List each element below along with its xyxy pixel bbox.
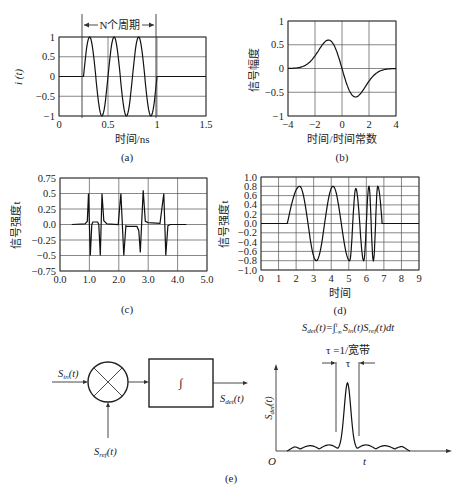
panel-d-xlabel: 时间 <box>329 287 351 299</box>
x-tick-label: 2.0 <box>112 274 125 285</box>
reference-signal-label: Sref(t) <box>94 446 117 459</box>
y-tick-label: −0.5 <box>37 250 56 261</box>
panel-a-ticks: 00.511.510.50−0.5−1 <box>36 32 213 131</box>
x-tick-label: 5 <box>346 273 351 284</box>
arrow-up-icon <box>106 402 110 407</box>
x-tick-label: 3 <box>311 273 316 284</box>
panel-e-xlabel: t <box>363 455 367 467</box>
x-tick-label: 2 <box>293 273 298 284</box>
y-tick-label: −1.0 <box>238 265 257 276</box>
x-tick-label: 4.0 <box>171 274 184 285</box>
y-tick-label: 0.0 <box>43 219 56 230</box>
x-tick-label: 4 <box>329 273 335 284</box>
x-tick-label: 5.0 <box>200 274 213 285</box>
arrow-up-icon <box>274 364 278 370</box>
x-tick-label: −4 <box>282 119 294 130</box>
x-tick-label: 1.0 <box>83 274 96 285</box>
y-tick-label: 1 <box>50 32 55 43</box>
svg-text:Sdet(t)=∫t−∞Sin(t)Sref(t)dt: Sdet(t)=∫t−∞Sin(t)Sref(t)dt <box>302 322 395 335</box>
y-tick-label: 0 <box>279 63 284 74</box>
panel-e-ylabel: Sdet(t) <box>263 396 276 420</box>
arrow-right-icon <box>331 361 336 365</box>
arrow-right-icon <box>144 380 149 384</box>
y-tick-label: 0.5 <box>42 51 55 62</box>
panel-b-ylabel: 信号幅度 <box>247 48 260 92</box>
x-tick-label: 1 <box>154 119 159 130</box>
panel-c-pulse-train-plot: 0.01.02.03.04.05.00.750.50.250.0−0.25−0.… <box>9 173 214 317</box>
panel-b-monocycle-plot: −4−202410.50−0.5−1 信号幅度 时间/时间常数 (b) <box>247 16 399 165</box>
panel-a-caption: (a) <box>121 151 134 164</box>
x-tick-label: 2 <box>366 119 371 130</box>
y-tick-label: 0.75 <box>38 173 56 184</box>
y-tick-label: −0.25 <box>32 235 56 246</box>
panel-b-caption: (b) <box>336 151 349 164</box>
x-tick-label: −2 <box>309 119 320 130</box>
y-tick-label: 0.5 <box>271 39 284 50</box>
panel-b-xlabel: 时间/时间常数 <box>307 133 376 145</box>
panel-a-pulse-plot: 00.511.510.50−0.5−1 N个周期 i (t) 时间/ns (a) <box>12 14 213 164</box>
x-tick-label: 0.5 <box>101 119 114 130</box>
x-tick-label: 0 <box>56 119 61 130</box>
x-tick-label: 1 <box>276 273 281 284</box>
panel-e-output-plot: τ =1/宽带 τ Sdet(t) O t <box>263 343 452 467</box>
y-tick-label: 0 <box>50 71 55 82</box>
panel-c-ylabel: 信号强度t <box>9 201 22 248</box>
x-tick-label: 9 <box>416 273 421 284</box>
formula-upper-limit: t <box>336 322 338 328</box>
arrow-right-icon <box>446 449 452 453</box>
panel-d-ylabel: 信号强度t <box>217 200 230 247</box>
panel-a-annotation: N个周期 <box>100 19 141 31</box>
formula-lhs-arg: (t)= <box>316 322 333 334</box>
output-signal-label: Sdet(t) <box>220 393 244 406</box>
y-tick-label: −1 <box>273 111 284 122</box>
y-tick-label: −0.5 <box>36 91 55 102</box>
panel-d-chirp-plot: 01234567891.00.80.60.40.20.0−0.2−0.4−0.6… <box>217 172 422 318</box>
arrow-right-icon <box>83 380 88 384</box>
y-tick-label: 0.5 <box>43 188 56 199</box>
panel-b-ticks: −4−202410.50−0.5−1 <box>265 16 399 131</box>
correlator-block-diagram: Sin(t) Sref(t) ∫ Sdet(t) (e) <box>52 359 248 485</box>
x-tick-label: 3.0 <box>142 274 155 285</box>
figure-canvas: 00.511.510.50−0.5−1 N个周期 i (t) 时间/ns (a)… <box>0 0 463 499</box>
x-tick-label: 0 <box>339 119 344 130</box>
panel-d-ticks: 01234567891.00.80.60.40.20.0−0.2−0.4−0.6… <box>238 172 422 285</box>
formula-term1-arg: (t) <box>353 322 363 334</box>
panel-e-origin-label: O <box>268 455 276 467</box>
x-tick-label: 7 <box>381 273 386 284</box>
panel-a-signal-curve <box>59 37 206 116</box>
y-tick-label: −0.5 <box>265 87 284 98</box>
integral-icon: ∫ <box>178 376 183 390</box>
formula-lower-limit: −∞ <box>333 329 342 335</box>
x-tick-label: 4 <box>393 119 399 130</box>
panel-c-signal-curve <box>72 190 187 255</box>
correlation-formula: Sdet(t)=∫t−∞Sin(t)Sref(t)dt <box>302 322 395 335</box>
panel-e-bandwidth-annotation: τ =1/宽带 <box>326 343 370 356</box>
x-tick-label: 0 <box>258 273 263 284</box>
arrow-left-icon <box>359 361 364 365</box>
y-tick-label: −0.75 <box>32 266 56 277</box>
arrow-right-icon <box>243 381 248 385</box>
x-tick-label: 6 <box>364 273 369 284</box>
panel-e-caption: (e) <box>225 472 238 485</box>
panel-d-caption: (d) <box>334 304 347 317</box>
y-tick-label: −1 <box>44 111 55 122</box>
panel-a-xlabel: 时间/ns <box>115 133 150 145</box>
arrow-right-icon <box>149 23 154 28</box>
y-tick-label: 1 <box>279 16 284 27</box>
x-tick-label: 1.5 <box>199 119 212 130</box>
panel-e-tau-label: τ <box>346 357 351 369</box>
input-signal-label: Sin(t) <box>58 368 79 381</box>
panel-c-caption: (c) <box>121 303 134 316</box>
arrow-left-icon <box>84 23 89 28</box>
formula-term2-arg: (t)dt <box>376 322 395 334</box>
panel-e-correlation-curve <box>287 383 410 451</box>
panel-a-ylabel: i (t) <box>12 69 25 86</box>
y-tick-label: 0.25 <box>38 204 56 215</box>
x-tick-label: 8 <box>399 273 404 284</box>
